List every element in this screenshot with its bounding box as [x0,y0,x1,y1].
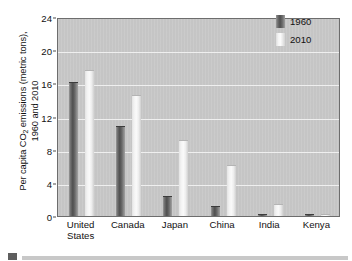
legend-item-2010[interactable]: 2010 [276,32,340,47]
bar-china-2010 [227,165,236,216]
bar-china-1960 [211,206,220,216]
x-axis-label-kenya: Kenya [303,219,330,230]
x-axis-label-line1: Kenya [303,219,330,230]
legend: 19602010 [276,14,340,50]
x-axis-labels: UnitedStatesCanadaJapanChinaIndiaKenya [57,219,340,253]
x-axis-label-india: India [259,219,280,230]
legend-label-2010: 2010 [290,35,311,45]
legend-item-1960[interactable]: 1960 [276,14,340,29]
bar-japan-1960 [163,196,172,216]
x-axis-label-line1: Canada [111,219,145,230]
y-axis-tick-mark [53,51,56,52]
y-axis-tick-label: 20 [26,46,52,57]
caption-figure-marker [8,253,17,260]
figure-chart-co2-per-capita: Per capita CO2 emissions (metric tons), … [0,0,352,261]
gridline [58,119,339,120]
caption-text-rule [22,256,348,260]
x-axis-label-line1: India [259,219,280,230]
x-axis-label-line1: United [67,219,95,230]
x-axis-label-canada: Canada [111,219,145,230]
bar-kenya-2010 [321,214,330,216]
y-axis-tick-label: 12 [26,112,52,123]
gridline [58,185,339,186]
legend-label-1960: 1960 [290,17,311,27]
y-axis-tick-label: 4 [26,178,52,189]
x-axis-label-china: China [210,219,235,230]
gridline [58,85,339,86]
x-axis-label-japan: Japan [162,219,188,230]
y-axis-ticks: 04812162024 [26,0,52,261]
bar-canada-1960 [116,126,125,216]
y-axis-tick-mark [53,18,56,19]
x-axis-label-line1: Japan [162,219,188,230]
y-axis-tick-mark [53,84,56,85]
legend-swatch-2010 [276,33,285,46]
x-axis-label-line1: China [210,219,235,230]
bar-united-states-1960 [69,82,78,216]
y-axis-tick-mark [53,183,56,184]
y-axis-tick-label: 8 [26,145,52,156]
x-axis-label-united-states: UnitedStates [67,219,95,242]
y-axis-tick-label: 0 [26,212,52,223]
bar-india-2010 [274,204,283,216]
y-axis-tick-label: 24 [26,13,52,24]
bar-united-states-2010 [85,70,94,216]
gridline [58,152,339,153]
y-axis-tick-mark [53,117,56,118]
y-axis-tick-mark [53,217,56,218]
x-axis-label-line2: States [67,230,95,241]
gridline [58,52,339,53]
y-axis-tick-mark [53,150,56,151]
y-axis-tick-label: 16 [26,79,52,90]
bar-japan-2010 [179,140,188,216]
legend-swatch-1960 [276,15,285,28]
figure-caption-sliver [8,253,348,261]
bar-canada-2010 [132,95,141,216]
bar-kenya-1960 [305,214,314,216]
bar-india-1960 [258,214,267,216]
